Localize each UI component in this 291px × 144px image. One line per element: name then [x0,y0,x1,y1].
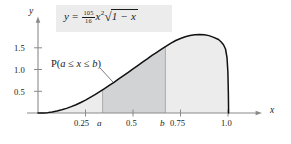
shaded-region-right [165,35,228,114]
x-axis-arrow-icon [256,111,262,116]
y-axis-label: y [29,6,33,16]
shaded-region-pab [103,47,166,114]
x-tick-label-0.25: 0.25 [74,118,89,128]
x-mark-label-b: b [160,118,165,128]
plabel-lower-bound: a [60,58,65,69]
plabel-suffix: ) [98,58,102,69]
probability-label: P(a ≤ x ≤ b) [51,58,101,69]
plabel-prefix: P( [51,58,60,69]
x-tick-label-1.0: 1.0 [221,118,232,128]
x-tick-label-0.75: 0.75 [170,118,185,128]
x-tick-label-0.5: 0.5 [126,118,137,128]
plabel-variable: x [77,58,82,69]
y-tick-label-1.5: 1.5 [14,43,25,53]
y-tick-label-1.0: 1.0 [14,65,25,75]
x-axis-label: x [270,105,274,115]
fraction-denominator: 16 [82,18,94,25]
equation-label: y = 105 16 x2√1 − x [64,9,138,25]
equation-equals: = [72,10,78,22]
x-mark-label-a: a [97,118,102,128]
equation-lhs: y [64,10,69,22]
shaded-region-left [38,90,103,113]
equation-radicand: 1 − x [111,9,138,22]
plabel-leader-line [100,68,113,82]
equation-coefficient-fraction: 105 16 [82,10,94,24]
plabel-rel-2: ≤ [84,58,90,69]
plabel-rel-1: ≤ [68,58,74,69]
y-axis-arrow-icon [36,17,41,23]
y-tick-label-0.5: 0.5 [14,87,25,97]
